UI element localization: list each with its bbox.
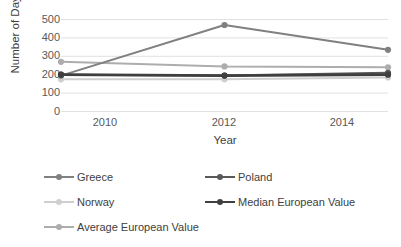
- legend-swatch-icon: [44, 196, 74, 208]
- x-tick-2010: 2010: [75, 116, 135, 128]
- data-point: [385, 72, 391, 78]
- legend-label: Greece: [77, 171, 113, 183]
- legend-item-poland[interactable]: Poland: [205, 168, 272, 186]
- legend-label: Norway: [77, 196, 114, 208]
- x-axis-title: Year: [55, 134, 395, 146]
- legend-swatch-icon: [44, 171, 74, 183]
- data-point: [58, 59, 64, 65]
- legend-item-greece[interactable]: Greece: [44, 168, 113, 186]
- data-point: [58, 72, 64, 78]
- chart-legend: GreecePolandNorwayMedian European ValueA…: [44, 168, 394, 242]
- data-point: [221, 22, 227, 28]
- series-layer: [58, 22, 391, 82]
- legend-swatch-icon: [205, 196, 235, 208]
- legend-item-norway[interactable]: Norway: [44, 193, 114, 211]
- x-tick-2012: 2012: [194, 116, 254, 128]
- legend-label: Poland: [238, 171, 272, 183]
- legend-swatch-icon: [205, 171, 235, 183]
- data-point: [221, 73, 227, 79]
- data-point: [221, 63, 227, 69]
- legend-swatch-icon: [44, 221, 74, 233]
- legend-label: Median European Value: [238, 196, 355, 208]
- data-point: [385, 47, 391, 53]
- legend-item-average-european-value[interactable]: Average European Value: [44, 218, 199, 236]
- legend-item-median-european-value[interactable]: Median European Value: [205, 193, 355, 211]
- line-chart: Number of Days 500 400 300 200 100 0 201…: [0, 0, 401, 247]
- legend-label: Average European Value: [77, 221, 199, 233]
- data-point: [385, 64, 391, 70]
- x-tick-2014: 2014: [312, 116, 372, 128]
